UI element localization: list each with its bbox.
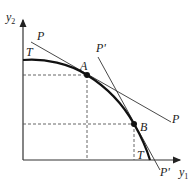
line-p-prime-label-top: P' xyxy=(95,41,106,55)
price-line-p-prime xyxy=(98,57,160,170)
x-axis-label: y1 xyxy=(178,165,188,181)
line-p-prime-label-bottom: P' xyxy=(159,165,170,179)
curve-label-top: T xyxy=(26,45,34,59)
point-b xyxy=(131,121,137,127)
line-p-label-top: P xyxy=(36,29,45,43)
ppf-diagram: y2 y1 T T P P P' P' A B xyxy=(0,0,193,186)
point-b-label: B xyxy=(140,120,148,134)
point-a-label: A xyxy=(79,59,88,73)
line-p-label-bottom: P xyxy=(171,112,180,126)
diagram-canvas: y2 y1 T T P P P' P' A B xyxy=(0,0,193,186)
y-axis-label: y2 xyxy=(5,10,15,26)
